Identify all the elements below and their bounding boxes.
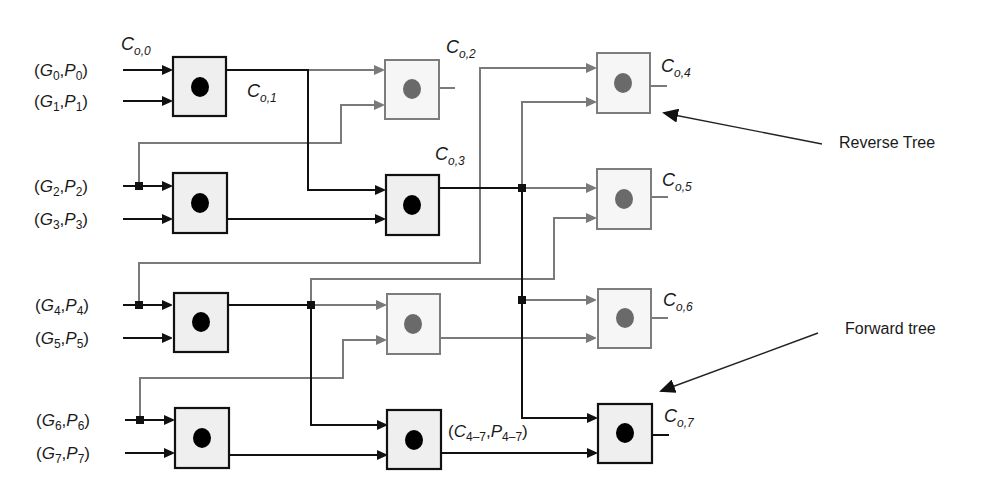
input-label-2: (G2,P2)	[34, 177, 88, 199]
operator-dot-icon	[614, 73, 632, 93]
input-label-7: (G7,P7)	[36, 444, 90, 466]
node-c	[174, 293, 228, 352]
operator-dot-icon	[191, 77, 209, 97]
operator-dot-icon	[405, 430, 423, 450]
operator-dot-icon	[403, 195, 421, 215]
operator-dot-icon	[193, 428, 211, 448]
node-b	[173, 173, 227, 233]
input-labels: (G0,P0) (G1,P1) (G2,P2) (G3,P3) (G4,P4) …	[34, 61, 90, 466]
node-co5	[597, 169, 651, 229]
operator-dot-icon	[404, 314, 422, 334]
reverse-tree-wires	[139, 68, 595, 420]
carry-label-co2: Co,2	[446, 37, 476, 61]
junction-dot	[136, 416, 144, 424]
node-g	[387, 294, 440, 354]
junction-dot	[518, 296, 526, 304]
input-label-4: (G4,P4)	[35, 296, 89, 318]
group-label-c47-p47: (C4–7,P4–7)	[448, 422, 528, 444]
node-a	[173, 57, 226, 116]
reverse-tree-pointer-arrow	[664, 113, 822, 144]
junction-dot	[135, 182, 143, 190]
operator-dot-icon	[615, 189, 633, 209]
operator-dot-icon	[616, 308, 634, 328]
operator-dot-icon	[192, 312, 210, 332]
node-d	[175, 408, 229, 468]
input-label-1: (G1,P1)	[34, 92, 88, 114]
input-label-3: (G3,P3)	[34, 210, 88, 232]
node-co3	[386, 175, 439, 235]
node-c47	[387, 410, 441, 469]
carry-label-co3: Co,3	[435, 144, 465, 168]
junction-dot	[518, 184, 526, 192]
operator-dot-icon	[616, 423, 634, 443]
carry-label-co5: Co,5	[662, 170, 692, 194]
reverse-tree-label: Reverse Tree	[839, 134, 935, 151]
input-label-0: (G0,P0)	[34, 61, 88, 83]
forward-tree-pointer-arrow	[661, 333, 818, 391]
input-label-6: (G6,P6)	[36, 411, 90, 433]
node-co4	[597, 53, 650, 113]
node-co7	[598, 404, 652, 463]
carry-tree-diagram: (G0,P0) (G1,P1) (G2,P2) (G3,P3) (G4,P4) …	[0, 0, 991, 497]
operator-dot-icon	[191, 193, 209, 213]
junction-dot	[135, 301, 143, 309]
junction-dot	[307, 301, 315, 309]
input-label-5: (G5,P5)	[35, 329, 89, 351]
carry-label-co7: Co,7	[664, 406, 695, 430]
carry-label-co0: Co,0	[121, 34, 151, 58]
carry-label-co6: Co,6	[663, 290, 693, 314]
forward-tree-label: Forward tree	[845, 320, 936, 337]
carry-label-co1: Co,1	[247, 81, 277, 105]
carry-label-co4: Co,4	[661, 56, 691, 80]
node-co6	[598, 289, 651, 348]
operator-dot-icon	[403, 79, 421, 99]
node-co2	[385, 60, 439, 119]
